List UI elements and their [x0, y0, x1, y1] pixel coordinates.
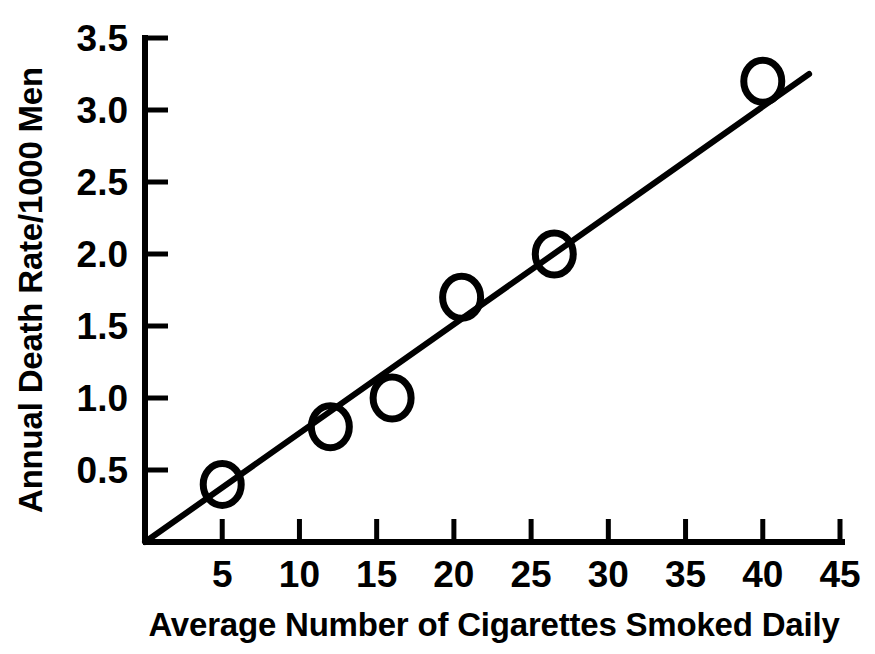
- y-tick-label: 0.5: [77, 450, 128, 491]
- y-tick-label: 2.5: [77, 162, 128, 203]
- x-tick-label: 35: [665, 554, 706, 595]
- x-tick-label: 15: [356, 554, 397, 595]
- x-tick-label: 5: [212, 554, 233, 595]
- y-tick-label: 1.5: [77, 306, 128, 347]
- x-axis-ticks: 51015202530354045: [212, 519, 861, 595]
- data-point: [373, 377, 411, 419]
- y-axis-title: Annual Death Rate/1000 Men: [12, 67, 49, 513]
- scatter-plot: 0.51.01.52.02.53.03.5 51015202530354045 …: [0, 0, 875, 654]
- x-tick-label: 10: [279, 554, 320, 595]
- data-point: [744, 60, 782, 102]
- x-tick-label: 30: [588, 554, 629, 595]
- chart-figure: 0.51.01.52.02.53.03.5 51015202530354045 …: [0, 0, 875, 654]
- x-tick-label: 45: [819, 554, 860, 595]
- y-tick-label: 3.5: [77, 18, 128, 59]
- y-tick-label: 2.0: [77, 234, 128, 275]
- x-tick-label: 40: [742, 554, 783, 595]
- x-axis-title: Average Number of Cigarettes Smoked Dail…: [148, 606, 840, 643]
- data-point: [443, 276, 481, 318]
- y-tick-label: 1.0: [77, 378, 128, 419]
- y-axis-ticks: 0.51.01.52.02.53.03.5: [77, 18, 168, 491]
- x-tick-label: 20: [433, 554, 474, 595]
- y-tick-label: 3.0: [77, 90, 128, 131]
- x-tick-label: 25: [511, 554, 552, 595]
